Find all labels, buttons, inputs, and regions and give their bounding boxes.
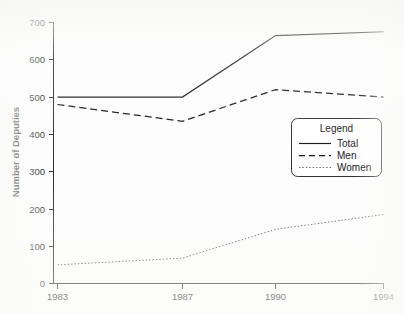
y-axis-tick-labels: 700 600 500 400 300 200 100 0 xyxy=(29,17,45,289)
x-axis-tick-labels: 1983 1987 1990 1994 xyxy=(47,291,394,302)
y-tick-label: 100 xyxy=(29,241,45,252)
y-axis-ticks xyxy=(49,23,54,284)
legend-title: Legend xyxy=(320,123,353,134)
legend-label-men: Men xyxy=(337,150,356,161)
y-tick-label: 200 xyxy=(29,204,45,215)
y-tick-label: 300 xyxy=(29,166,45,177)
y-tick-label: 0 xyxy=(40,278,45,289)
y-axis-title: Number of Deputies xyxy=(10,107,21,197)
legend-label-total: Total xyxy=(337,138,358,149)
y-tick-label: 700 xyxy=(29,17,45,28)
legend: Legend Total Men Women xyxy=(292,119,382,177)
x-axis-ticks xyxy=(58,284,384,289)
line-chart: 700 600 500 400 300 200 100 0 1983 1987 … xyxy=(0,0,404,314)
y-tick-label: 500 xyxy=(29,92,45,103)
y-tick-label: 400 xyxy=(29,129,45,140)
x-tick-label: 1987 xyxy=(172,291,193,302)
legend-label-women: Women xyxy=(337,162,371,173)
chart-container: 700 600 500 400 300 200 100 0 1983 1987 … xyxy=(0,0,404,314)
x-tick-label: 1983 xyxy=(47,291,68,302)
series-line-men xyxy=(58,90,384,122)
series-line-women xyxy=(58,215,384,265)
y-tick-label: 600 xyxy=(29,54,45,65)
x-tick-label: 1990 xyxy=(265,291,286,302)
series-line-total xyxy=(58,32,384,97)
x-tick-label: 1994 xyxy=(373,291,394,302)
